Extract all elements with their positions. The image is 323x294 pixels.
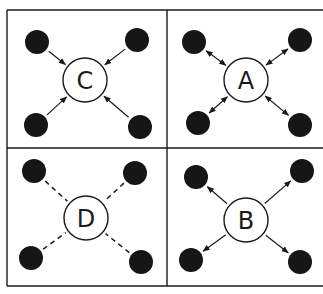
node-dot: [288, 113, 312, 137]
node-dot: [184, 165, 208, 189]
hub-label: A: [238, 67, 255, 95]
node-dot: [179, 248, 203, 272]
edge: [203, 235, 226, 251]
edge: [209, 97, 227, 113]
edge: [265, 96, 288, 115]
edge: [207, 187, 227, 204]
panel-a: A: [182, 28, 312, 137]
edge: [47, 97, 67, 115]
node-dot: [123, 161, 147, 185]
node-dot: [129, 250, 153, 274]
edge: [105, 49, 125, 65]
edge: [104, 96, 129, 117]
node-dot: [19, 246, 43, 270]
edge: [206, 51, 226, 65]
node-dot: [288, 28, 312, 52]
node-dot: [288, 250, 312, 274]
panel-d: D: [19, 159, 153, 274]
node-dot: [182, 30, 206, 54]
hub-label: B: [238, 207, 254, 235]
frame: [7, 10, 323, 286]
node-dot: [22, 159, 46, 183]
hub-label: C: [77, 67, 94, 95]
node-dot: [25, 30, 49, 54]
edge: [266, 235, 288, 252]
node-dot: [24, 113, 48, 137]
edge: [43, 233, 66, 249]
edge: [49, 51, 66, 64]
edge: [45, 181, 67, 201]
panel-c: C: [24, 28, 152, 139]
edge: [265, 181, 291, 204]
edge: [266, 49, 288, 65]
node-dot: [290, 159, 314, 183]
edge: [106, 234, 130, 253]
node-dot: [125, 28, 149, 52]
panel-b: B: [179, 159, 314, 274]
hub-label: D: [77, 205, 95, 233]
network-diagram: CADB: [0, 0, 323, 294]
node-dot: [186, 111, 210, 135]
node-dot: [128, 115, 152, 139]
edge: [104, 183, 124, 201]
